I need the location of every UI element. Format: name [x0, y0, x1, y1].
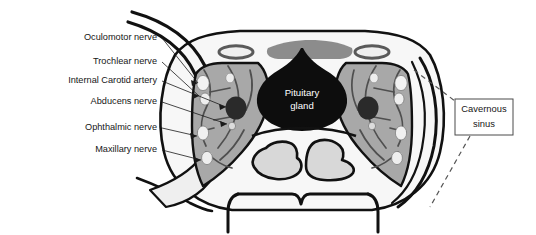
- anatomy-group: [128, 12, 444, 232]
- nerve-dot-ophthalmic-left: [197, 126, 208, 140]
- callout-label-line1: Cavernous: [461, 103, 507, 114]
- label-trochlear-nerve: Trochlear nerve: [93, 56, 157, 66]
- optic-nerve-right: [355, 46, 389, 58]
- label-internal-carotid-artery: Internal Carotid artery: [68, 75, 157, 85]
- nerve-dot-ophthalmic-right: [395, 126, 406, 140]
- nerve-dot-oculomotor-right: [395, 75, 407, 90]
- nerve-dot-oculomotor-left: [197, 75, 209, 90]
- internal-carotid-artery-right: [358, 97, 379, 120]
- nerve-dot-abducens-right: [368, 122, 375, 130]
- pituitary-label-line2: gland: [290, 100, 313, 111]
- label-ophthalmic-nerve: Ophthalmic nerve: [85, 122, 157, 132]
- label-maxillary-nerve: Maxillary nerve: [95, 144, 157, 154]
- nerve-dot-trochlear-left: [200, 93, 210, 105]
- nerve-dot-extra-right: [370, 73, 378, 83]
- label-abducens-nerve: Abducens nerve: [91, 96, 157, 106]
- internal-carotid-artery-left: [226, 97, 247, 120]
- anatomy-diagram: Oculomotor nerve Trochlear nerve Interna…: [0, 0, 536, 235]
- nerve-dot-maxillary-left: [202, 151, 213, 164]
- optic-nerve-left: [219, 46, 253, 58]
- label-oculomotor-nerve: Oculomotor nerve: [84, 32, 157, 42]
- nerve-dot-abducens-left: [228, 122, 235, 130]
- figure-container: Oculomotor nerve Trochlear nerve Interna…: [0, 0, 536, 235]
- nerve-dot-extra-left: [226, 73, 234, 83]
- nerve-dot-trochlear-right: [394, 93, 404, 105]
- nerve-dot-maxillary-right: [392, 151, 403, 164]
- callout-label-line2: sinus: [473, 118, 495, 129]
- pituitary-label-line1: Pituitary: [285, 87, 320, 98]
